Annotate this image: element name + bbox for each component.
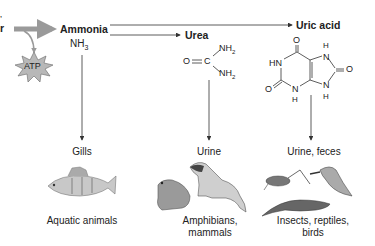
lizard-illustration <box>262 200 330 216</box>
animals-mammals: mammals <box>188 227 231 238</box>
uric-o-top: O <box>293 35 300 45</box>
ferret-illustration <box>190 163 246 212</box>
cropped-label-fragment-2: r <box>0 22 4 34</box>
uric-n-bottom-right: N <box>323 80 330 90</box>
animals-aquatic: Aquatic animals <box>47 215 118 226</box>
urea-nh2-bottom: NH2 <box>219 68 235 80</box>
urea-nh2-top: NH2 <box>219 43 235 55</box>
animals-birds: birds <box>302 227 324 238</box>
ammonia-label: Ammonia <box>60 23 108 35</box>
excretion-diagram: ’ r ATP Ammonia NH3 Urea O C NH2 NH2 Uri… <box>0 0 375 246</box>
urea-o: O <box>183 56 190 66</box>
uric-o-right: O <box>346 64 353 74</box>
fish-illustration <box>48 167 116 196</box>
uric-h-bottom-left: H <box>292 95 298 104</box>
uric-n-top: N <box>323 52 330 62</box>
route-urine-feces: Urine, feces <box>287 146 340 157</box>
route-urine: Urine <box>197 146 221 157</box>
urea-label: Urea <box>185 29 208 41</box>
uric-h-bottom-right: H <box>323 92 329 101</box>
frog-illustration <box>158 180 191 210</box>
animals-insects-reptiles: Insects, reptiles, <box>277 215 349 226</box>
route-gills: Gills <box>72 146 91 157</box>
uric-n-bottom-left: N <box>292 84 299 94</box>
uric-o-left: O <box>265 84 272 94</box>
animals-amphibians: Amphibians, <box>182 215 237 226</box>
urea-c: C <box>204 56 211 66</box>
uric-h-top: H <box>323 41 329 50</box>
atp-label: ATP <box>24 61 41 71</box>
uric-hn: HN <box>269 58 282 68</box>
kingfisher-illustration <box>310 167 352 196</box>
ammonia-formula: NH3 <box>70 38 88 51</box>
uric-acid-label: Uric acid <box>296 19 340 31</box>
grasshopper-illustration <box>264 170 310 190</box>
